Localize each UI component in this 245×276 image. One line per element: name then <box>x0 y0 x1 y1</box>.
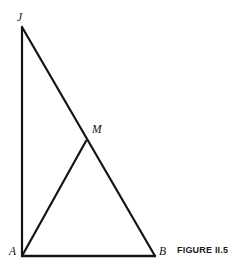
triangle-diagram <box>0 0 245 276</box>
vertex-label-a: A <box>9 246 16 258</box>
vertex-label-b: B <box>159 246 166 258</box>
figure-container: J M A B FIGURE II.5 <box>0 0 245 276</box>
vertex-label-j: J <box>17 12 22 24</box>
vertex-label-m: M <box>92 124 102 136</box>
diagram-background <box>0 0 245 276</box>
figure-caption: FIGURE II.5 <box>177 245 228 255</box>
